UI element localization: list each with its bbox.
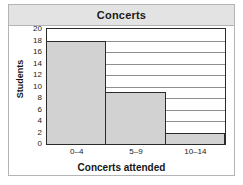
x-tick-label: 5–9 [106,147,165,156]
y-tick-label: 8 [25,94,42,102]
y-tick-label: 6 [25,106,42,114]
histogram-bar [106,92,165,144]
x-tick-label: 0–4 [47,147,106,156]
plot-inner [47,29,225,144]
plot-area [46,28,226,145]
x-axis-tick-labels: 0–45–910–14 [46,147,226,159]
y-axis-tick-labels: 20181614121086420 [25,28,42,145]
histogram-screenshot: Concerts Students 20181614121086420 0–45… [0,0,243,185]
histogram-bar [47,41,106,145]
y-tick-label: 2 [25,129,42,137]
y-tick-label: 18 [25,37,42,45]
y-tick-label: 20 [25,25,42,33]
chart-title-band: Concerts [9,5,234,26]
x-axis-label: Concerts attended [9,162,234,173]
y-tick-label: 4 [25,117,42,125]
chart-body: Students 20181614121086420 0–45–910–14 C… [9,26,234,175]
y-tick-label: 10 [25,83,42,91]
y-tick-label: 14 [25,60,42,68]
y-tick-label: 16 [25,48,42,56]
y-tick-label: 0 [25,140,42,148]
histogram-bar [166,133,225,145]
y-tick-label: 12 [25,71,42,79]
y-axis-label: Students [15,49,25,109]
chart-title: Concerts [97,9,146,21]
chart-card: Concerts Students 20181614121086420 0–45… [8,4,235,176]
x-tick-label: 10–14 [166,147,225,156]
